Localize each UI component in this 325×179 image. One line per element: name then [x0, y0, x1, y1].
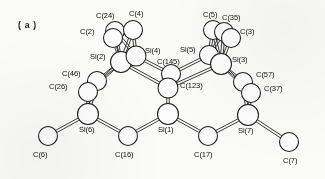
atom-si6 [78, 104, 99, 125]
atom-label-c24: C(24) [96, 11, 115, 20]
structure-canvas: C(24)C(4)C(2)Si(2)Si(4)C(5)C(35)C(3)Si(5… [0, 0, 325, 179]
atom-c16 [119, 127, 138, 146]
atom-label-si7: Si(7) [238, 126, 254, 135]
atom-label-c123: C(123) [180, 81, 203, 90]
atom-label-c4: C(4) [129, 9, 144, 18]
atom-label-si6: Si(6) [79, 125, 95, 134]
atom-label-si3: Si(3) [232, 55, 248, 64]
atom-c3 [222, 29, 241, 48]
atom-label-c46: C(46) [62, 69, 81, 78]
atom-label-c2: C(2) [80, 27, 95, 36]
atom-c7 [280, 133, 299, 152]
atom-label-c7: C(7) [283, 156, 298, 165]
atom-c37 [242, 84, 261, 103]
panel-label: ( a ) [18, 20, 37, 30]
molecular-structure-figure: C(24)C(4)C(2)Si(2)Si(4)C(5)C(35)C(3)Si(5… [0, 0, 325, 179]
atom-label-si5: Si(5) [180, 45, 196, 54]
atom-si4 [126, 46, 146, 66]
atom-si3 [211, 54, 232, 75]
atom-c26 [79, 83, 98, 102]
atom-label-si4: Si(4) [145, 46, 161, 55]
atom-label-c26: C(26) [49, 82, 68, 91]
atom-label-c57: C(57) [256, 70, 275, 79]
atom-label-c35: C(35) [222, 13, 241, 22]
atom-label-c37: C(37) [264, 84, 283, 93]
atom-label-c5: C(5) [203, 10, 218, 19]
atom-c6 [39, 127, 58, 146]
atom-si1 [158, 104, 179, 125]
atom-label-si2: Si(2) [90, 52, 106, 61]
atom-si7 [238, 105, 259, 126]
atom-c123 [158, 78, 178, 98]
atom-c2 [104, 29, 123, 48]
atom-c17 [199, 127, 218, 146]
atom-label-c145: C(145) [157, 57, 180, 66]
atom-label-c3: C(3) [240, 27, 255, 36]
atom-label-si1: Si(1) [158, 125, 174, 134]
atom-c4 [124, 21, 143, 40]
atom-label-c17: C(17) [194, 150, 213, 159]
atom-label-c16: C(16) [115, 150, 134, 159]
atom-label-c6: C(6) [33, 150, 48, 159]
